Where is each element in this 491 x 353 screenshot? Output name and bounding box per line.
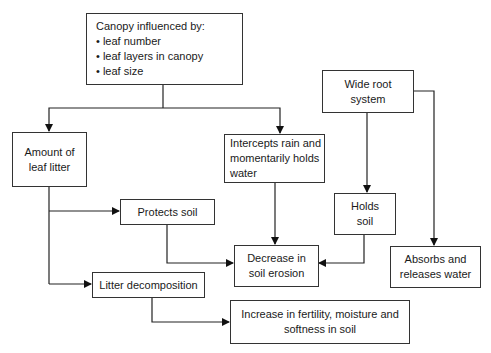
node-text: soil — [357, 214, 374, 229]
node-text: soil erosion — [249, 266, 305, 281]
canopy-bullet-3: • leaf size — [96, 64, 242, 79]
node-text: leaf litter — [29, 160, 71, 175]
node-text: Litter decomposition — [99, 278, 197, 293]
intercepts-node: Intercepts rain and momentarily holds wa… — [224, 134, 325, 183]
node-text: Increase in fertility, moisture and — [241, 307, 399, 322]
node-text: Protects soil — [138, 205, 198, 220]
holds-soil-node: Holds soil — [334, 193, 396, 235]
node-text: Absorbs and — [405, 252, 467, 267]
leaf-litter-node: Amount of leaf litter — [12, 132, 87, 187]
canopy-bullet-2: • leaf layers in canopy — [96, 49, 242, 64]
node-text: Holds — [351, 199, 379, 214]
decrease-erosion-node: Decrease in soil erosion — [234, 245, 319, 287]
canopy-title: Canopy influenced by: — [96, 19, 242, 34]
node-text: system — [351, 92, 386, 107]
node-text: Wide root — [344, 77, 391, 92]
canopy-node: Canopy influenced by: • leaf number • le… — [86, 13, 243, 85]
node-text: Amount of — [24, 145, 74, 160]
canopy-bullet-1: • leaf number — [96, 34, 242, 49]
node-text: Decrease in — [247, 251, 306, 266]
node-text: releases water — [400, 267, 472, 282]
increase-fertility-node: Increase in fertility, moisture and soft… — [230, 300, 410, 344]
node-text: softness in soil — [284, 322, 356, 337]
node-text: water — [230, 166, 324, 181]
node-text: Intercepts rain and — [230, 136, 324, 151]
node-text: momentarily holds — [230, 151, 324, 166]
absorbs-water-node: Absorbs and releases water — [390, 246, 481, 288]
protects-soil-node: Protects soil — [120, 199, 215, 225]
litter-decomposition-node: Litter decomposition — [92, 272, 205, 298]
root-system-node: Wide root system — [322, 70, 414, 113]
